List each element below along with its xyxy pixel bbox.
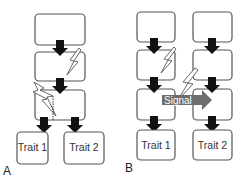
panel-b-trait-1-label: Trait 1 bbox=[141, 139, 171, 151]
signal-label: Signal bbox=[164, 95, 192, 106]
panel-b-trait-2-label: Trait 2 bbox=[198, 139, 228, 151]
panel-b-label: B bbox=[125, 161, 133, 175]
panel-b-right-stage-2-box bbox=[193, 50, 232, 80]
panel-a-trait-1-label: Trait 1 bbox=[18, 141, 48, 153]
panel-a: Trait 1 Trait 2 A bbox=[3, 14, 104, 177]
panel-b-right-stage-1-box bbox=[193, 12, 232, 42]
panel-b-left-stage-1-box bbox=[137, 12, 175, 42]
diagram-canvas: Trait 1 Trait 2 A Signal Trait 1 Trait 2 bbox=[0, 0, 245, 177]
panel-b: Signal Trait 1 Trait 2 B bbox=[125, 12, 232, 175]
panel-a-stage-2-box bbox=[35, 52, 85, 81]
panel-a-label: A bbox=[3, 164, 11, 177]
panel-a-trait-2-label: Trait 2 bbox=[69, 141, 99, 153]
